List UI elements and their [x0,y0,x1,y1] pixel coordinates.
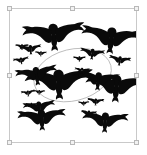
bird-silhouette [78,101,89,106]
bird-silhouette [17,108,67,132]
handle-top-left[interactable] [7,6,12,11]
bird-silhouette [108,55,131,68]
bird-silhouette [87,98,104,107]
bird-silhouette [73,56,86,62]
bird-silhouette [21,90,36,98]
handle-bottom-right[interactable] [134,140,139,145]
bird-flock-artwork [10,9,136,142]
image-canvas [0,0,147,155]
selection-frame[interactable] [9,8,137,143]
handle-middle-right[interactable] [134,73,139,78]
bird-silhouette [33,90,45,96]
bird-silhouette-layer [13,21,136,134]
handle-bottom-center[interactable] [70,140,75,145]
handle-top-right[interactable] [134,6,139,11]
bird-silhouette [13,56,30,66]
bird-silhouette [35,51,47,57]
handle-bottom-left[interactable] [7,140,12,145]
handle-middle-left[interactable] [7,73,12,78]
handle-top-center[interactable] [70,6,75,11]
bird-silhouette [79,47,105,61]
